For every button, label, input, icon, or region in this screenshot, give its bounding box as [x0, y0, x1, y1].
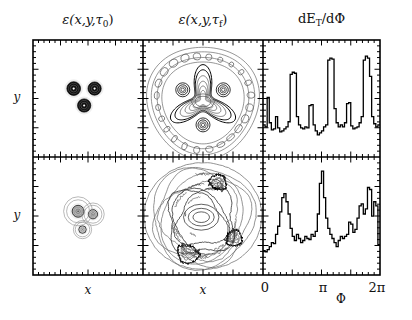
outer-contour [151, 52, 255, 155]
plot-canvas [0, 0, 412, 320]
filament-contour [190, 233, 196, 237]
contour-island [193, 146, 200, 154]
contour-island [205, 146, 213, 153]
contour-island [168, 57, 180, 69]
density-blob [87, 208, 99, 220]
panel-r1c3 [263, 56, 380, 135]
contour-island [237, 69, 245, 76]
filament-contour [194, 256, 207, 259]
blob-peak [83, 104, 85, 106]
density-blob [86, 80, 103, 97]
blob-peak [94, 87, 96, 89]
hotspot-contour [222, 88, 225, 91]
histogram-step-line [263, 56, 380, 135]
panel-r1c2 [147, 47, 260, 159]
blob-peak [77, 211, 78, 212]
outer-contour [144, 163, 262, 270]
contour-island [205, 54, 212, 61]
tick-group [143, 157, 263, 275]
contour-island [245, 103, 253, 111]
blob-peak [73, 87, 75, 89]
contour-island [247, 92, 255, 99]
tick-group [33, 40, 143, 157]
contour-island [158, 115, 166, 122]
outer-contour [157, 57, 249, 148]
hotspot-contour [220, 87, 226, 93]
outer-contour [152, 168, 252, 268]
density-blob [70, 204, 85, 219]
hotspot-contour [200, 122, 206, 128]
contour-island [216, 141, 226, 149]
panel-r1c1 [65, 80, 103, 114]
density-blob [65, 80, 83, 98]
filament-contour [189, 183, 204, 187]
hotspot-contour [181, 88, 184, 91]
contour-island [170, 134, 178, 143]
tick-group [263, 40, 380, 157]
core-contour [188, 208, 214, 226]
filament-contour [188, 197, 200, 204]
panel-r2c2 [144, 163, 262, 271]
contour-island [154, 91, 160, 99]
panel-r2c1 [64, 197, 105, 239]
contour-island [193, 52, 201, 60]
histogram-step-line [263, 171, 380, 252]
panel-r2c3 [263, 171, 380, 252]
contour-island [159, 66, 170, 78]
hotspot-contour [180, 87, 186, 93]
density-blob [78, 225, 88, 235]
contour-island [163, 125, 171, 133]
blob-peak [82, 229, 83, 230]
figure-root: ε(x,y,τ0) ε(x,y,τf) dET/dΦ y y x x Φ 0 π… [0, 0, 412, 320]
core-contour [193, 212, 210, 223]
density-blob [76, 97, 93, 114]
hotspot-contour [201, 123, 204, 126]
filament-contour [195, 173, 210, 176]
